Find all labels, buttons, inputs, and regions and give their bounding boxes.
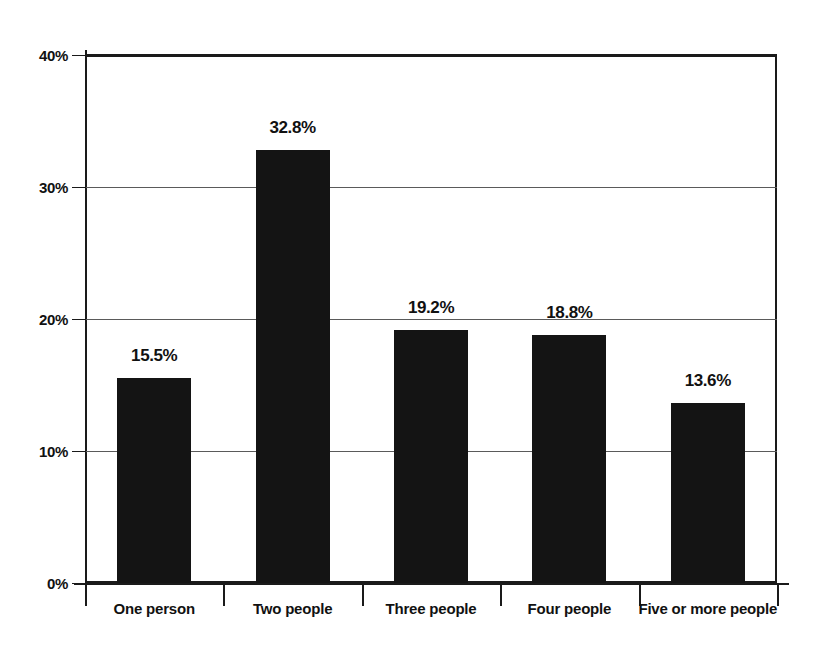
y-axis-tick: [72, 187, 86, 188]
y-axis-tick: [72, 451, 86, 452]
bar-value-label: 18.8%: [509, 303, 629, 323]
x-axis-spine: [74, 583, 789, 585]
bar-chart: 0%10%20%30%40% 15.5%32.8%19.2%18.8%13.6%…: [0, 0, 819, 664]
bar: [671, 403, 745, 583]
bar-value-label: 32.8%: [233, 118, 353, 138]
y-axis-spine: [85, 50, 87, 595]
y-axis-tick: [72, 55, 86, 56]
bar-value-label: 15.5%: [94, 346, 214, 366]
bar: [256, 150, 330, 583]
bar-value-label: 19.2%: [371, 298, 491, 318]
y-axis-tick-label: 20%: [0, 311, 68, 328]
y-axis-tick: [72, 583, 86, 584]
bar: [532, 335, 606, 583]
y-axis-tick-label: 0%: [0, 575, 68, 592]
bar: [394, 330, 468, 583]
bar-value-label: 13.6%: [648, 371, 768, 391]
y-axis-tick: [72, 319, 86, 320]
y-axis-tick-label: 30%: [0, 179, 68, 196]
y-axis-tick-label: 40%: [0, 47, 68, 64]
gridline: [85, 187, 777, 188]
x-axis-category-label: Five or more people: [618, 600, 798, 617]
y-axis-tick-label: 10%: [0, 443, 68, 460]
bar: [117, 378, 191, 583]
gridline: [85, 319, 777, 320]
gridline: [85, 54, 777, 56]
